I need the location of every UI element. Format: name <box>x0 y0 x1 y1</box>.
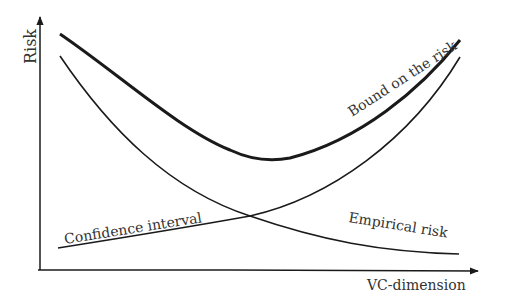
bound-label: Bound on the risk <box>345 37 460 119</box>
x-axis-right <box>230 270 478 271</box>
confidence-label: Confidence interval <box>63 209 203 247</box>
empirical-label: Empirical risk <box>348 209 450 241</box>
bound-on-risk-curve <box>60 34 460 160</box>
x-axis-label: VC-dimension <box>366 277 466 293</box>
y-axis-label: Risk <box>21 29 40 64</box>
vc-dimension-diagram: Risk VC-dimension Bound on the risk Conf… <box>0 0 505 296</box>
